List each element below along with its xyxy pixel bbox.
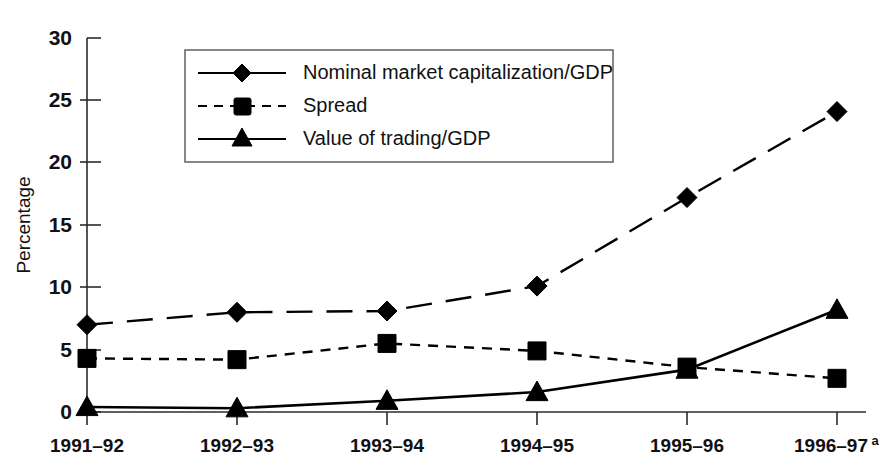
x-tick-label-1992-93: 1992–93: [200, 435, 274, 456]
data-point: [377, 301, 397, 321]
data-point: [78, 349, 96, 367]
legend-label-1: Spread: [303, 94, 368, 116]
y-tick-label-20: 20: [49, 150, 72, 173]
data-point: [677, 188, 697, 208]
x-axis-labels: 1991–92 1992–93 1993–94 1994–95 1995–96 …: [50, 433, 879, 456]
data-point: [528, 342, 546, 360]
legend-label-2: Value of trading/GDP: [303, 127, 491, 149]
data-point: [826, 299, 848, 319]
x-tick-label-1994-95: 1994–95: [500, 435, 574, 456]
data-point: [77, 315, 97, 335]
y-tick-label-0: 0: [60, 400, 72, 423]
x-axis-ticks: [87, 412, 837, 425]
x-tick-label-1995-96: 1995–96: [650, 435, 724, 456]
data-point: [527, 276, 547, 296]
legend-entry-value-of-trading[interactable]: Value of trading/GDP: [198, 127, 491, 149]
y-tick-label-5: 5: [60, 338, 72, 361]
data-point: [228, 351, 246, 369]
x-tick-label-1991-92: 1991–92: [50, 435, 124, 456]
series-line-1: [87, 343, 837, 378]
y-tick-label-15: 15: [49, 213, 73, 236]
data-point: [378, 334, 396, 352]
data-point: [827, 102, 847, 122]
y-axis-title: Percentage: [13, 176, 34, 273]
series-square: [78, 334, 846, 387]
square-icon: [234, 98, 251, 115]
y-tick-label-25: 25: [49, 88, 73, 111]
y-tick-label-10: 10: [49, 275, 72, 298]
line-chart-svg: Percentage 30 25 20 15 10 5 0: [0, 0, 889, 474]
chart-legend: Nominal market capitalization/GDP Spread…: [185, 50, 613, 162]
data-point: [227, 302, 247, 322]
x-tick-label-1996-97-footnote: a: [871, 433, 879, 448]
chart-figure: Percentage 30 25 20 15 10 5 0: [0, 0, 889, 474]
data-point: [828, 369, 846, 387]
y-tick-label-30: 30: [49, 26, 72, 49]
legend-label-0: Nominal market capitalization/GDP: [303, 61, 613, 83]
x-tick-label-1993-94: 1993–94: [350, 435, 424, 456]
x-tick-label-1996-97: 1996–97: [794, 435, 868, 456]
